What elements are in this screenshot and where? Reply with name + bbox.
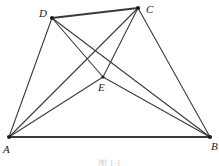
- vertex-label-e: E: [98, 82, 105, 93]
- vertex-dot-e: [101, 75, 104, 78]
- vertex-dot-b: [208, 135, 212, 139]
- segment-dc: [52, 8, 138, 18]
- segments-layer: [9, 8, 210, 137]
- vertex-label-c: C: [146, 4, 153, 15]
- figure-caption: 图 1-1: [0, 159, 219, 166]
- vertex-dot-d: [50, 16, 54, 20]
- segment-ec: [103, 8, 138, 77]
- geometry-canvas: [0, 0, 219, 166]
- vertex-label-d: D: [39, 8, 47, 19]
- segment-ac: [9, 8, 138, 137]
- segment-eb: [103, 77, 210, 137]
- segment-cb: [138, 8, 210, 137]
- vertex-dot-a: [7, 135, 11, 139]
- segment-ad: [9, 18, 52, 137]
- segment-db: [52, 18, 210, 137]
- vertex-label-a: A: [3, 144, 10, 155]
- geometry-figure: A B C D E 图 1-1: [0, 0, 219, 166]
- segment-ae: [9, 77, 103, 137]
- vertex-label-b: B: [211, 141, 218, 152]
- vertex-dot-c: [136, 6, 140, 10]
